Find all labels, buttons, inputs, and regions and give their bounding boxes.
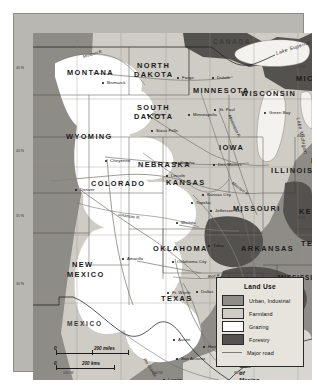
scale-bar: 0 200 miles 0 200 kms	[52, 347, 148, 375]
graticule-label-35N-left: 35°N	[16, 215, 24, 219]
scale-miles-tick-right	[128, 350, 129, 355]
legend-item-major-road[interactable]: Major road	[217, 346, 303, 359]
legend-label-urban: Urban, Industrial	[249, 298, 290, 304]
scale-kms-tick-right	[114, 365, 115, 370]
scale-miles-tick-mid	[92, 350, 93, 355]
map-legend[interactable]: Land Use Urban, IndustrialFarmlandGrazin…	[216, 277, 304, 367]
map-page: CANADAMEXICOMONTANANORTHDAKOTASOUTHDAKOT…	[0, 0, 317, 385]
legend-swatch-road-icon	[222, 348, 242, 357]
scale-miles-row: 0 200 miles	[52, 347, 148, 360]
legend-title: Land Use	[217, 283, 303, 290]
legend-swatch-forest-icon	[222, 334, 244, 345]
legend-swatch-urban-icon	[222, 295, 244, 306]
legend-item-urban-industrial[interactable]: Urban, Industrial	[217, 294, 303, 307]
scale-kms-zero: 0	[54, 361, 57, 366]
scale-miles-zero: 0	[54, 346, 57, 351]
graticule-label-40N-left: 40°N	[16, 150, 24, 154]
legend-label-forest: Forestry	[249, 337, 270, 343]
legend-label-farm: Farmland	[249, 311, 273, 317]
graticule-label-30N-left: 30°N	[16, 283, 24, 287]
legend-label-graz: Grazing	[249, 324, 269, 330]
legend-item-farmland[interactable]: Farmland	[217, 307, 303, 320]
legend-swatch-graz-icon	[222, 321, 244, 332]
legend-row-list: Urban, IndustrialFarmlandGrazingForestry…	[217, 294, 303, 359]
legend-swatch-farm-icon	[222, 308, 244, 319]
scale-kms-row: 0 200 kms	[52, 362, 148, 375]
scale-miles-value: 200 miles	[94, 346, 115, 351]
legend-item-forestry[interactable]: Forestry	[217, 333, 303, 346]
legend-item-grazing[interactable]: Grazing	[217, 320, 303, 333]
legend-label-road: Major road	[247, 350, 274, 356]
graticule-label-45N-left: 45°N	[16, 67, 24, 71]
scale-kms-value: 200 kms	[82, 361, 100, 366]
scale-kms-line	[56, 368, 114, 369]
